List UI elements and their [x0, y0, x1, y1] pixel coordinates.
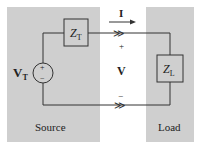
source-minus: − [40, 74, 45, 83]
bottom-wire-marker: ≫ [114, 99, 126, 111]
current-arrowhead-icon [130, 20, 136, 25]
current-label: I [119, 7, 123, 19]
voltage-label: V [117, 64, 126, 78]
load-label: Load [158, 121, 181, 133]
plus-terminal: + [119, 41, 124, 51]
circuit-diagram: ZT + − VT ZL I ≫ + V − ≫ Source Load [0, 0, 203, 148]
source-label: Source [35, 121, 66, 133]
top-wire-marker: ≫ [113, 27, 125, 39]
source-plus: + [40, 63, 45, 72]
